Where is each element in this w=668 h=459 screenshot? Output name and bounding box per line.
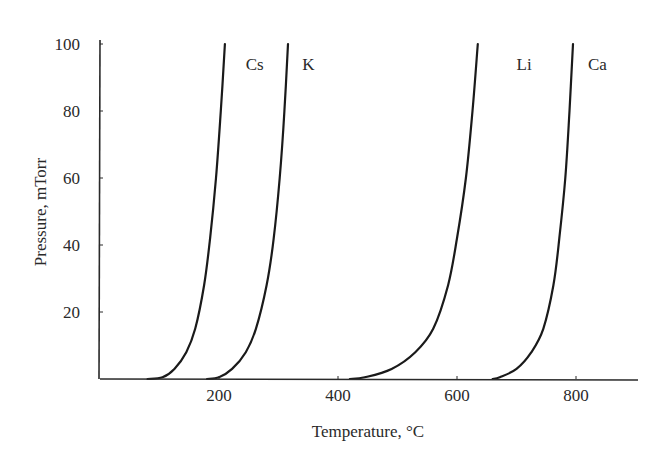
x-axis-title: Temperature, °C [312,422,424,441]
y-tick-label: 60 [63,169,80,188]
curve-cs [148,44,225,379]
x-tick-label: 400 [325,386,351,405]
y-tick-label: 20 [63,303,80,322]
series-label-ca: Ca [588,55,607,74]
y-axis-title: Pressure, mTorr [31,157,50,266]
y-tick-label: 80 [63,102,80,121]
series-label-cs: Cs [246,55,264,74]
series-labels: CsKLiCa [246,55,607,74]
y-axis-line [99,40,100,379]
series-curves [148,44,573,379]
x-tick-label: 600 [444,386,470,405]
x-axis: 200400600800 Temperature, °C [100,376,638,441]
y-ticks: 20406080100 [55,35,104,322]
x-tick-label: 200 [206,386,232,405]
y-tick-label: 40 [63,236,80,255]
x-tick-label: 800 [563,386,589,405]
vapor-pressure-chart: CsKLiCa 200400600800 Temperature, °C 204… [0,0,668,459]
curve-li [350,44,478,379]
series-label-li: Li [517,55,532,74]
plot-area: CsKLiCa [148,44,608,379]
y-axis: 20406080100 Pressure, mTorr [31,35,103,379]
curve-ca [493,44,573,379]
series-label-k: K [302,55,315,74]
x-axis-line [100,379,638,380]
curve-k [207,44,288,379]
y-tick-label: 100 [55,35,81,54]
